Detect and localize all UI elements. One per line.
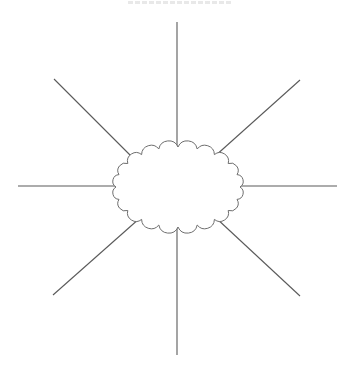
spoke-top-right [214,80,300,157]
center-cloud-shape [113,141,243,233]
spoke-bottom-right [215,217,300,296]
spoke-bottom-left [53,218,140,295]
spoke-top-left [54,79,132,157]
web-diagram [0,0,356,373]
